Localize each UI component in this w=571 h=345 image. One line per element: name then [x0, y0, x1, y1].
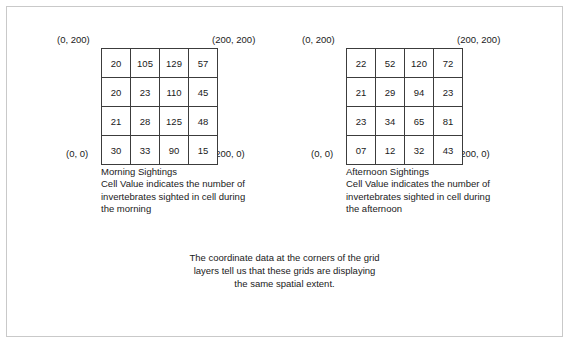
grid-cell: 12 — [376, 136, 405, 165]
coord-label-bottom-left: (0, 0) — [66, 148, 88, 159]
grid-cell: 21 — [102, 107, 131, 136]
grid-row: 23 34 65 81 — [347, 107, 463, 136]
grid-cell: 43 — [434, 136, 463, 165]
grid-cell: 33 — [131, 136, 160, 165]
grid-row: 30 33 90 15 — [102, 136, 218, 165]
panel-afternoon-sightings: (0, 200) (200, 200) (0, 0) (200, 0) 22 5… — [297, 7, 527, 142]
grid-cell: 21 — [347, 78, 376, 107]
grid-cell: 52 — [376, 49, 405, 78]
grid-cell: 29 — [376, 78, 405, 107]
grid-cell: 90 — [160, 136, 189, 165]
coord-label-bottom-left: (0, 0) — [311, 148, 333, 159]
closing-note-line: layers tell us that these grids are disp… — [7, 264, 562, 277]
grid-cell: 65 — [405, 107, 434, 136]
caption-title: Afternoon Sightings — [346, 166, 551, 178]
raster-grid-morning: 20 105 129 57 20 23 110 45 21 28 125 — [101, 48, 218, 165]
grid-cell: 105 — [131, 49, 160, 78]
closing-note-line: The coordinate data at the corners of th… — [7, 251, 562, 264]
caption-line: the morning — [101, 203, 306, 215]
grid-cell: 32 — [405, 136, 434, 165]
grid-cell: 110 — [160, 78, 189, 107]
grid-cell: 28 — [131, 107, 160, 136]
grid-block-afternoon: (0, 200) (200, 200) (0, 0) (200, 0) 22 5… — [297, 7, 527, 142]
grid-cell: 94 — [405, 78, 434, 107]
grid-row: 20 105 129 57 — [102, 49, 218, 78]
grid-cell: 07 — [347, 136, 376, 165]
grid-cell: 48 — [189, 107, 218, 136]
grid-cell: 120 — [405, 49, 434, 78]
grid-cell: 20 — [102, 78, 131, 107]
grid-cell: 81 — [434, 107, 463, 136]
grid-cell: 57 — [189, 49, 218, 78]
caption-line: Cell Value indicates the number of — [101, 178, 306, 190]
grid-row: 20 23 110 45 — [102, 78, 218, 107]
grid-row: 07 12 32 43 — [347, 136, 463, 165]
figure-frame: (0, 200) (200, 200) (0, 0) (200, 0) 20 1… — [6, 6, 563, 337]
grid-row: 22 52 120 72 — [347, 49, 463, 78]
coord-label-top-left: (0, 200) — [57, 34, 90, 45]
raster-grid-afternoon: 22 52 120 72 21 29 94 23 23 34 65 — [346, 48, 463, 165]
caption-line: invertebrates sighted in cell during — [101, 191, 306, 203]
caption-afternoon: Afternoon Sightings Cell Value indicates… — [346, 166, 551, 216]
grid-block-morning: (0, 200) (200, 200) (0, 0) (200, 0) 20 1… — [52, 7, 282, 142]
grid-cell: 15 — [189, 136, 218, 165]
caption-title: Morning Sightings — [101, 166, 306, 178]
closing-note: The coordinate data at the corners of th… — [7, 251, 562, 290]
caption-line: the afternoon — [346, 203, 551, 215]
panel-morning-sightings: (0, 200) (200, 200) (0, 0) (200, 0) 20 1… — [52, 7, 282, 142]
coord-label-top-right: (200, 200) — [212, 34, 255, 45]
grid-cell: 30 — [102, 136, 131, 165]
grid-cell: 23 — [434, 78, 463, 107]
closing-note-line: the same spatial extent. — [7, 277, 562, 290]
grid-cell: 23 — [131, 78, 160, 107]
coord-label-top-right: (200, 200) — [457, 34, 500, 45]
grid-cell: 34 — [376, 107, 405, 136]
grid-cell: 23 — [347, 107, 376, 136]
caption-morning: Morning Sightings Cell Value indicates t… — [101, 166, 306, 216]
grid-cell: 129 — [160, 49, 189, 78]
caption-line: Cell Value indicates the number of — [346, 178, 551, 190]
caption-line: invertebrates sighted in cell during — [346, 191, 551, 203]
grid-cell: 125 — [160, 107, 189, 136]
grid-cell: 22 — [347, 49, 376, 78]
grid-row: 21 29 94 23 — [347, 78, 463, 107]
coord-label-top-left: (0, 200) — [302, 34, 335, 45]
grid-cell: 45 — [189, 78, 218, 107]
grid-cell: 72 — [434, 49, 463, 78]
grid-cell: 20 — [102, 49, 131, 78]
grid-row: 21 28 125 48 — [102, 107, 218, 136]
